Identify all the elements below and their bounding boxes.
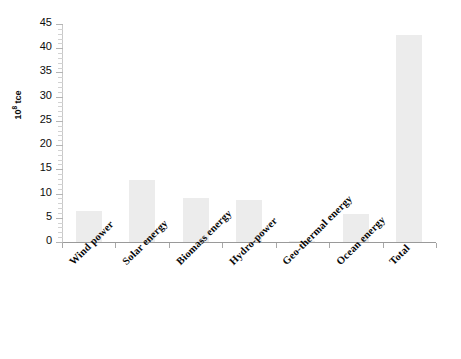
y-tick-minor [58, 155, 63, 156]
y-tick-major [56, 169, 63, 170]
y-tick-label: 40 [6, 40, 52, 52]
y-tick-minor [58, 140, 63, 141]
y-tick-minor [58, 39, 63, 40]
y-tick-minor [58, 179, 63, 180]
y-tick-minor [58, 160, 63, 161]
y-tick-minor [58, 87, 63, 88]
x-tick [383, 243, 384, 248]
y-axis-ticks: 051015202530354045 [0, 0, 52, 359]
y-tick-minor [58, 92, 63, 93]
y-tick-minor [58, 116, 63, 117]
y-tick-minor [58, 174, 63, 175]
y-tick-minor [58, 131, 63, 132]
y-tick-major [56, 48, 63, 49]
y-tick-major [56, 97, 63, 98]
y-tick-minor [58, 198, 63, 199]
y-tick-minor [58, 106, 63, 107]
x-tick [169, 243, 170, 248]
x-tick [329, 243, 330, 248]
y-tick-minor [58, 203, 63, 204]
y-tick-minor [58, 68, 63, 69]
y-tick-label: 30 [6, 89, 52, 101]
y-tick-minor [58, 208, 63, 209]
y-tick-major [56, 145, 63, 146]
y-tick-label: 10 [6, 186, 52, 198]
y-tick-minor [58, 150, 63, 151]
y-tick-minor [58, 237, 63, 238]
y-tick-major [56, 121, 63, 122]
y-tick-label: 20 [6, 137, 52, 149]
y-tick-minor [58, 82, 63, 83]
y-tick-minor [58, 53, 63, 54]
y-tick-minor [58, 29, 63, 30]
y-tick-label: 15 [6, 161, 52, 173]
x-tick [222, 243, 223, 248]
y-tick-minor [58, 34, 63, 35]
y-tick-major [56, 194, 63, 195]
y-tick-label: 0 [6, 234, 52, 246]
y-tick-minor [58, 189, 63, 190]
y-tick-label: 35 [6, 64, 52, 76]
y-tick-minor [58, 111, 63, 112]
x-tick [276, 243, 277, 248]
x-axis-label: Total [388, 242, 413, 267]
y-tick-minor [58, 184, 63, 185]
y-tick-minor [58, 213, 63, 214]
y-tick-major [56, 72, 63, 73]
y-tick-minor [58, 77, 63, 78]
x-tick [436, 243, 437, 248]
y-tick-minor [58, 232, 63, 233]
y-tick-minor [58, 63, 63, 64]
y-tick-major [56, 218, 63, 219]
y-tick-label: 45 [6, 16, 52, 28]
bar-chart: 108 tce 051015202530354045 Wind powerSol… [0, 0, 461, 359]
y-tick-minor [58, 227, 63, 228]
x-tick [62, 243, 63, 248]
y-tick-major [56, 242, 63, 243]
bars-container [62, 24, 436, 242]
y-tick-minor [58, 58, 63, 59]
y-tick-minor [58, 135, 63, 136]
bar [396, 35, 422, 242]
y-tick-minor [58, 223, 63, 224]
y-tick-label: 5 [6, 210, 52, 222]
y-tick-minor [58, 102, 63, 103]
y-tick-label: 25 [6, 113, 52, 125]
x-tick [115, 243, 116, 248]
y-tick-minor [58, 126, 63, 127]
y-tick-major [56, 24, 63, 25]
y-tick-minor [58, 43, 63, 44]
y-tick-minor [58, 164, 63, 165]
